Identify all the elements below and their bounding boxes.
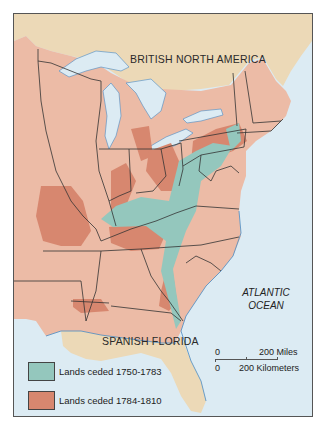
legend-swatch-teal bbox=[28, 362, 55, 381]
atlantic-ocean-label: ATLANTIC OCEAN bbox=[236, 286, 296, 312]
map-frame: BRITISH NORTH AMERICA SPANISH FLORIDA AT… bbox=[13, 13, 313, 417]
legend-item-1750-1783: Lands ceded 1750-1783 bbox=[28, 362, 161, 381]
british-north-america-label: BRITISH NORTH AMERICA bbox=[130, 53, 266, 65]
spanish-florida-label: SPANISH FLORIDA bbox=[102, 335, 199, 347]
legend-item-1784-1810: Lands ceded 1784-1810 bbox=[28, 391, 161, 410]
legend-swatch-salmon bbox=[28, 391, 55, 410]
